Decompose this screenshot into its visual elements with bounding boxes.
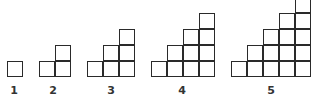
square (279, 45, 295, 61)
square (295, 13, 311, 29)
square (103, 61, 119, 77)
staircase-diagram: 12345 (0, 0, 314, 103)
square (279, 29, 295, 45)
square (119, 29, 135, 45)
square (103, 45, 119, 61)
square (295, 61, 311, 77)
square (87, 61, 103, 77)
square (7, 61, 23, 77)
figure-label: 2 (49, 84, 57, 97)
square (55, 61, 71, 77)
square (295, 0, 311, 13)
figure-label: 1 (10, 84, 18, 97)
figure-label: 3 (107, 84, 115, 97)
square (263, 45, 279, 61)
square (295, 29, 311, 45)
square (263, 61, 279, 77)
square (247, 45, 263, 61)
square (231, 61, 247, 77)
square (295, 45, 311, 61)
square (167, 61, 183, 77)
square (119, 61, 135, 77)
square (151, 61, 167, 77)
square (119, 45, 135, 61)
square (247, 61, 263, 77)
square (183, 29, 199, 45)
square (263, 29, 279, 45)
square (183, 61, 199, 77)
square (183, 45, 199, 61)
square (199, 45, 215, 61)
square (167, 45, 183, 61)
square (199, 61, 215, 77)
figure-label: 5 (267, 84, 275, 97)
square (199, 29, 215, 45)
figure-label: 4 (178, 84, 186, 97)
square (279, 61, 295, 77)
square (39, 61, 55, 77)
square (279, 13, 295, 29)
square (199, 13, 215, 29)
square (55, 45, 71, 61)
